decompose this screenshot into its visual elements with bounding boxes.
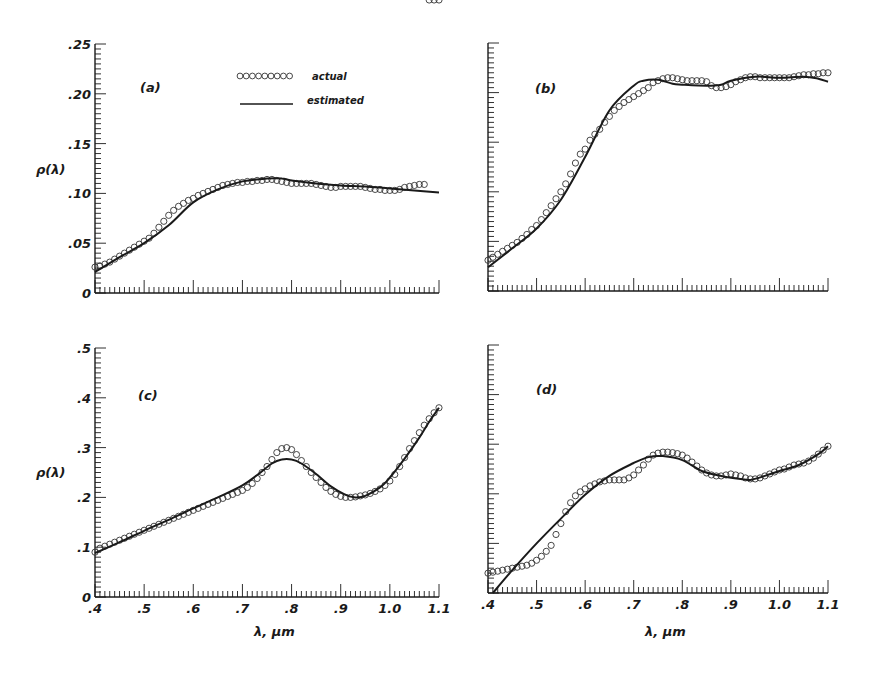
- x-tick-label: .8: [285, 601, 299, 616]
- y-tick-label: .20: [68, 87, 91, 102]
- x-tick-label: 1.1: [427, 601, 450, 616]
- actual-data-point: [166, 212, 172, 218]
- actual-data-point: [567, 500, 573, 506]
- panel-label: (b): [535, 81, 556, 96]
- actual-data-point: [640, 462, 646, 468]
- panel-label: (a): [140, 80, 161, 95]
- y-tick-label: .5: [77, 341, 91, 356]
- actual-data-point: [572, 160, 578, 166]
- x-tick-label: .5: [137, 601, 151, 616]
- y-tick-label: .1: [77, 540, 91, 555]
- x-tick-label: .7: [235, 601, 250, 616]
- actual-data-point: [631, 472, 637, 478]
- x-tick-label: .9: [334, 601, 348, 616]
- panel-a: 0.05.10.15.20.25(a): [68, 0, 442, 301]
- panel-label: (c): [138, 388, 158, 403]
- figure-four-panel-reflectance: 0.05.10.15.20.25(a) (b) 0.1.2.3.4.5.4.5.…: [0, 0, 874, 678]
- x-tick-label: 1.1: [816, 597, 839, 612]
- actual-data-point: [293, 451, 299, 457]
- legend-estimated-label: estimated: [307, 95, 365, 106]
- y-tick-label: .15: [68, 137, 91, 152]
- x-tick-label: .6: [186, 601, 200, 616]
- x-tick-label: 1.0: [768, 597, 791, 612]
- actual-data-point: [543, 548, 549, 554]
- y-tick-label: .05: [68, 236, 91, 251]
- x-tick-label: .7: [627, 597, 642, 612]
- actual-data-point: [548, 203, 554, 209]
- y-tick-label: .2: [77, 490, 91, 505]
- legend: actual estimated: [237, 71, 365, 106]
- actual-data-point: [558, 189, 564, 195]
- legend-actual-marker-icon: [237, 73, 292, 79]
- x-axis-title-left: λ, μm: [253, 624, 295, 639]
- actual-data-point: [563, 181, 569, 187]
- x-axis-title-right: λ, μm: [644, 624, 686, 639]
- estimated-curve: [488, 77, 828, 268]
- plots-canvas: 0.05.10.15.20.25(a) (b) 0.1.2.3.4.5.4.5.…: [0, 0, 874, 678]
- y-tick-label: .3: [77, 441, 91, 456]
- actual-data-point: [553, 196, 559, 202]
- y-tick-label: 0: [82, 286, 91, 301]
- actual-data-point: [635, 467, 641, 473]
- legend-actual-label: actual: [312, 71, 347, 82]
- panel-label: (d): [536, 382, 557, 397]
- panel-b: (b): [485, 43, 831, 291]
- actual-data-point: [548, 542, 554, 548]
- panel-c: 0.1.2.3.4.5.4.5.6.7.8.91.01.1(c): [77, 341, 451, 616]
- x-tick-label: .9: [724, 597, 738, 612]
- x-tick-label: .6: [578, 597, 592, 612]
- y-axis-title-bottom: ρ(λ): [36, 465, 65, 480]
- actual-data-point: [567, 171, 573, 177]
- actual-data-point: [156, 224, 162, 230]
- actual-data-point: [538, 553, 544, 559]
- y-tick-label: .25: [68, 37, 91, 52]
- x-tick-label: 1.0: [378, 601, 401, 616]
- actual-data-point: [161, 218, 167, 224]
- actual-data-point: [553, 531, 559, 537]
- y-tick-label: .10: [68, 186, 91, 201]
- estimated-curve: [493, 446, 828, 593]
- x-tick-label: .4: [88, 601, 102, 616]
- x-tick-label: .8: [675, 597, 689, 612]
- panel-d: .4.5.6.7.8.91.01.1(d): [481, 345, 840, 612]
- y-tick-label: .4: [77, 391, 91, 406]
- x-tick-label: .5: [530, 597, 544, 612]
- x-tick-label: .4: [481, 597, 495, 612]
- actual-data-point: [577, 151, 583, 157]
- y-axis-title-top: ρ(λ): [36, 162, 65, 177]
- actual-data-point: [645, 85, 651, 91]
